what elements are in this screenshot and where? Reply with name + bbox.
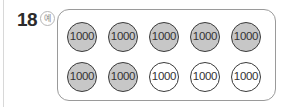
coin-1000-white: 1000 [149,62,179,92]
example-badge: 예 [40,11,55,26]
coin-1000-white: 1000 [190,62,220,92]
coin-1000-gray: 1000 [67,22,97,52]
coin-1000-gray: 1000 [108,22,138,52]
question-number: 18 [17,9,37,31]
coin-1000-gray: 1000 [149,22,179,52]
coin-answer-box: 1000100010001000100010001000100010001000 [57,9,276,101]
coin-1000-white: 1000 [231,62,261,92]
coin-1000-gray: 1000 [67,62,97,92]
coin-1000-gray: 1000 [231,22,261,52]
page-margin-line [3,0,4,107]
coin-1000-gray: 1000 [190,22,220,52]
coin-1000-gray: 1000 [108,62,138,92]
